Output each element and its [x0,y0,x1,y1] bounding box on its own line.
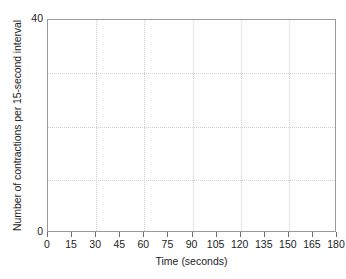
horizontal-gridline [48,127,335,128]
x-axis-tick-label: 180 [327,238,345,250]
x-axis-tick-label: 30 [89,238,101,250]
y-axis-tick-label: 0 [24,226,43,237]
x-axis-tick-label: 15 [65,238,77,250]
x-axis-tick-label: 165 [303,238,321,250]
x-axis-tick-marks [47,232,336,237]
x-axis-tick-label: 60 [137,238,149,250]
x-axis-tick [119,232,120,237]
x-axis-tick-label: 0 [44,238,50,250]
horizontal-gridline [48,73,335,74]
gridlines [48,20,335,231]
plot-area [47,19,336,232]
x-axis-tick [336,232,337,237]
x-axis-tick-label: 90 [186,238,198,250]
x-axis-tick-label: 105 [207,238,225,250]
x-axis-tick-label: 45 [113,238,125,250]
x-axis-tick [240,232,241,237]
horizontal-gridline [48,180,335,181]
vertical-gridline [96,20,97,231]
x-axis-tick [167,232,168,237]
x-axis-tick [264,232,265,237]
x-axis-tick-label: 120 [231,238,249,250]
x-axis-tick [47,232,48,237]
y-axis-tick-label: 40 [24,13,43,24]
x-axis-tick-label: 150 [279,238,297,250]
vertical-gridline [241,20,242,231]
x-axis-tick-label: 135 [255,238,273,250]
x-axis-title: Time (seconds) [47,255,336,268]
x-axis-tick [192,232,193,237]
x-axis-tick [95,232,96,237]
x-axis-tick [71,232,72,237]
x-axis-tick-labels: 0153045607590105120135150165180 [0,238,346,252]
vertical-gridline [193,20,194,231]
vertical-gridline [144,20,145,231]
chart-figure: Number of contractions per 15-second int… [0,0,346,279]
x-axis-tick [288,232,289,237]
x-axis-tick [312,232,313,237]
x-axis-tick [216,232,217,237]
x-axis-tick [143,232,144,237]
vertical-gridline [289,20,290,231]
x-axis-tick-label: 75 [162,238,174,250]
